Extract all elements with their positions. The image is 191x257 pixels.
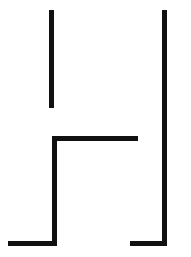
stroke-bottom-right-horizontal <box>130 241 167 246</box>
figure-canvas <box>0 0 191 257</box>
stroke-lower-left-vertical <box>52 136 57 246</box>
stroke-bottom-left-horizontal <box>8 241 57 246</box>
stroke-right-vertical <box>162 10 167 246</box>
line-figure-svg <box>0 0 191 257</box>
stroke-middle-horizontal <box>52 136 138 141</box>
stroke-upper-left-vertical <box>49 10 54 108</box>
